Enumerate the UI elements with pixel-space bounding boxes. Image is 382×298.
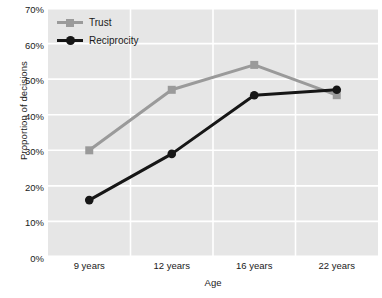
x-tick-label: 22 years <box>297 260 377 271</box>
trust-series-key-icon <box>57 16 83 28</box>
x-axis-title: Age <box>48 277 378 288</box>
y-tick-label: 10% <box>4 217 44 228</box>
legend-item-trust: Trust <box>57 13 187 31</box>
legend-label-reciprocity: Reciprocity <box>89 35 138 46</box>
legend-item-reciprocity: Reciprocity <box>57 31 187 49</box>
chart-legend: Trust Reciprocity <box>57 13 187 49</box>
x-tick-label: 9 years <box>49 260 129 271</box>
legend-label-trust: Trust <box>89 17 111 28</box>
y-tick-label: 0% <box>4 253 44 264</box>
x-tick-label: 12 years <box>132 260 212 271</box>
y-tick-label: 70% <box>4 4 44 15</box>
plot-area: Trust Reciprocity <box>48 8 378 257</box>
chart-figure: 70% 60% 50% 40% 30% 20% 10% 0% Proportio… <box>0 0 382 298</box>
y-axis-title: Proportion of decisions <box>18 31 29 191</box>
x-tick-label: 16 years <box>214 260 294 271</box>
reciprocity-series-key-icon <box>57 34 83 46</box>
